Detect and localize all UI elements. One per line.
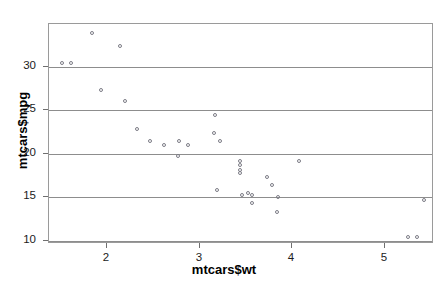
y-tick-mark-15 (43, 196, 48, 197)
data-point (246, 191, 250, 195)
data-point (218, 139, 222, 143)
data-point (60, 61, 64, 65)
data-point (186, 143, 190, 147)
data-point (177, 139, 181, 143)
data-point (69, 61, 73, 65)
x-tick-mark-5 (384, 243, 385, 248)
y-axis-title: mtcars$mpg (15, 71, 30, 191)
data-point (162, 143, 166, 147)
data-point (275, 210, 279, 214)
y-tick-label-15: 15 (10, 190, 36, 202)
data-point (135, 127, 139, 131)
data-point (213, 113, 217, 117)
data-point (90, 31, 94, 35)
data-point (238, 163, 242, 167)
data-point (276, 195, 280, 199)
y-tick-mark-30 (43, 66, 48, 67)
y-tick-label-10: 10 (10, 234, 36, 246)
data-point (415, 235, 419, 239)
gridline-y-20 (49, 154, 432, 155)
data-point (118, 44, 122, 48)
x-tick-mark-2 (106, 243, 107, 248)
data-point (406, 235, 410, 239)
y-tick-mark-10 (43, 240, 48, 241)
gridline-y-25 (49, 110, 432, 111)
y-tick-mark-20 (43, 153, 48, 154)
data-point (238, 159, 242, 163)
data-point (99, 88, 103, 92)
data-point (297, 159, 301, 163)
figure-canvas: 1015202530 2345 mtcars$mpg mtcars$wt (0, 0, 448, 289)
x-tick-mark-3 (199, 243, 200, 248)
data-point (270, 183, 274, 187)
x-axis-title: mtcars$wt (0, 262, 448, 277)
data-point (123, 99, 127, 103)
gridline-y-15 (49, 197, 432, 198)
plot-area (49, 24, 432, 242)
gridline-y-30 (49, 67, 432, 68)
plot-frame (48, 23, 433, 243)
data-point (250, 201, 254, 205)
data-point (176, 154, 180, 158)
data-point (265, 175, 269, 179)
data-point (422, 198, 426, 202)
data-point (148, 139, 152, 143)
y-tick-mark-25 (43, 109, 48, 110)
data-point (215, 188, 219, 192)
x-tick-mark-4 (291, 243, 292, 248)
gridline-y-10 (49, 241, 432, 242)
data-point (212, 131, 216, 135)
